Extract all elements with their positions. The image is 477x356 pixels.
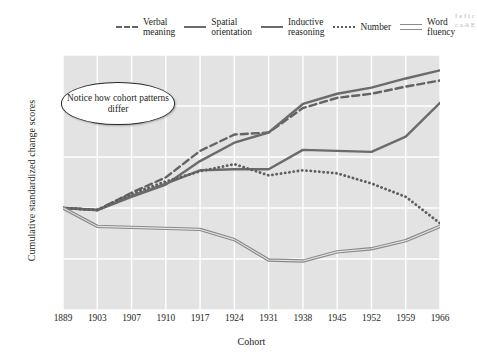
solid-line-key-icon — [261, 22, 283, 33]
legend-label-line2: orientation — [211, 27, 252, 37]
legend-label-line2: meaning — [143, 27, 175, 37]
legend-item-spatial-orientation: Spatial orientation — [184, 17, 252, 37]
legend-label-line1: Number — [360, 22, 391, 32]
legend-label-inductive-reasoning: Inductive reasoning — [288, 17, 324, 37]
annotation-text: Notice how cohort patterns differ — [62, 93, 174, 115]
legend-item-verbal-meaning: Verbal meaning — [116, 17, 175, 37]
dashed-line-key-icon — [116, 22, 138, 33]
solid-line-key-icon — [184, 22, 206, 33]
legend-label-word-fluency: Word fluency — [427, 17, 455, 37]
legend-item-number: Number — [333, 22, 391, 33]
x-axis-label: Cohort — [63, 336, 440, 347]
legend-label-line1: Spatial — [211, 17, 237, 27]
legend-item-inductive-reasoning: Inductive reasoning — [261, 17, 324, 37]
legend-label-line1: Word — [427, 17, 448, 27]
series-line-word-fluency — [63, 208, 440, 261]
chart-legend: Verbal meaning Spatial orientation Induc… — [116, 12, 446, 42]
legend-label-number: Number — [360, 22, 391, 32]
double-line-key-icon — [400, 22, 422, 33]
legend-label-spatial-orientation: Spatial orientation — [211, 17, 252, 37]
annotation-callout: Notice how cohort patterns differ — [61, 82, 175, 125]
legend-label-line2: fluency — [427, 27, 455, 37]
legend-label-line1: Inductive — [288, 17, 323, 27]
series-line-number — [63, 164, 440, 223]
legend-label-line2: reasoning — [288, 27, 324, 37]
legend-label-line1: Verbal — [143, 17, 167, 27]
page-edge-text: f e f i c c a A E — [455, 12, 477, 122]
series-line-word-fluency-inner — [63, 208, 440, 261]
legend-item-word-fluency: Word fluency — [400, 17, 455, 37]
x-tick-label: 1966 — [420, 313, 460, 323]
y-axis-label: Cumulative standardized change scores — [26, 66, 37, 296]
legend-label-verbal-meaning: Verbal meaning — [143, 17, 175, 37]
dotted-line-key-icon — [333, 22, 355, 33]
